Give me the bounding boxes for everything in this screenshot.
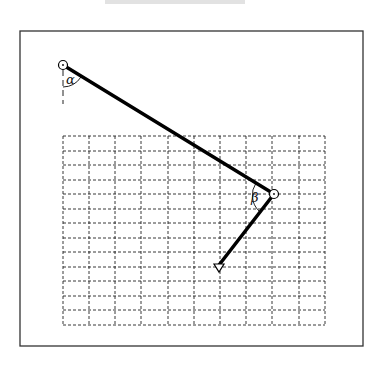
alpha-label: α: [66, 72, 75, 87]
end-effector-triangle-icon: [214, 264, 224, 272]
shoulder-joint-icon: [59, 61, 68, 70]
beta-label: β: [250, 190, 259, 205]
elbow-joint-icon: [270, 190, 279, 199]
forearm-segment: [219, 194, 274, 265]
workspace-grid: [63, 136, 325, 325]
arm-diagram: α β: [0, 0, 381, 367]
upper-arm-segment: [63, 65, 274, 194]
